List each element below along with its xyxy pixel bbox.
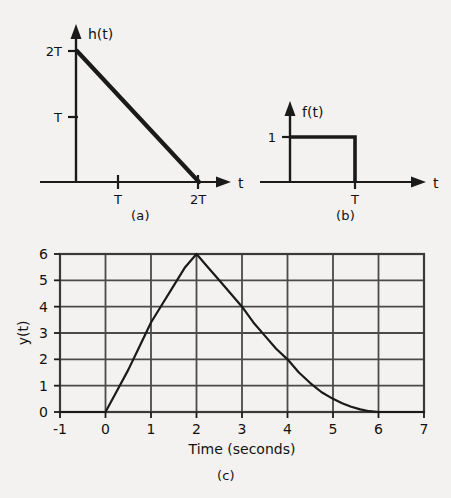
panel-a-ramp-line <box>77 51 199 182</box>
chart-x-tick-label: -1 <box>53 421 67 437</box>
chart-x-tick-label: 4 <box>283 421 292 437</box>
panel-a-y-axis-arrow-icon <box>71 24 82 39</box>
panel-a-impulse-response: 2T T T 2T h(t) t <box>0 0 255 230</box>
panel-c-plot: -101234567 0123456 Time (seconds) y(t) <box>0 232 451 498</box>
chart-x-tick-label: 2 <box>192 421 201 437</box>
panel-b-ytick-label-1: 1 <box>268 130 276 145</box>
chart-x-tick-label: 7 <box>420 421 429 437</box>
panel-a-y-axis-label: h(t) <box>88 26 113 42</box>
chart-y-tick-label: 5 <box>39 272 48 288</box>
chart-x-tick-label: 0 <box>101 421 110 437</box>
chart-x-axis-title: Time (seconds) <box>188 441 296 457</box>
chart-y-tick-label: 1 <box>39 378 48 394</box>
caption-b: (b) <box>336 208 355 223</box>
chart-x-tick-label: 5 <box>329 421 338 437</box>
panel-b-y-axis-label: f(t) <box>302 104 323 120</box>
panel-b-pulse-outline <box>290 137 355 182</box>
panel-a-x-axis-arrow-icon <box>216 177 231 188</box>
panel-b-xtick-label-t: T <box>350 192 359 207</box>
chart-y-tick-label: 0 <box>39 404 48 420</box>
figure-container: 2T T T 2T h(t) t 1 T f(t) t <box>0 0 451 498</box>
panel-a-ytick-label-2t: 2T <box>46 44 62 59</box>
chart-x-tick-labels: -101234567 <box>53 421 428 437</box>
panel-a-xtick-label-2t: 2T <box>190 192 206 207</box>
chart-x-tick-label: 6 <box>374 421 383 437</box>
chart-y-tick-label: 2 <box>39 351 48 367</box>
panel-a-plot: 2T T T 2T h(t) t <box>0 0 255 230</box>
chart-y-tick-label: 4 <box>39 299 48 315</box>
caption-c: (c) <box>217 468 235 483</box>
caption-a: (a) <box>131 208 150 223</box>
panel-b-x-axis-label: t <box>433 175 439 191</box>
chart-y-tick-labels: 0123456 <box>39 246 48 420</box>
chart-x-tick-label: 3 <box>238 421 247 437</box>
panel-c-output-chart: -101234567 0123456 Time (seconds) y(t) <box>0 232 451 498</box>
chart-y-tick-label: 3 <box>39 325 48 341</box>
chart-y-tick-label: 6 <box>39 246 48 262</box>
panel-b-y-axis-arrow-icon <box>285 101 296 116</box>
panel-a-xtick-label-t: T <box>113 192 122 207</box>
chart-y-axis-title: y(t) <box>15 321 31 346</box>
chart-x-tick-label: 1 <box>147 421 156 437</box>
chart-gridlines <box>60 254 424 412</box>
panel-b-x-axis-arrow-icon <box>411 177 426 188</box>
panel-a-ytick-label-t: T <box>53 110 62 125</box>
